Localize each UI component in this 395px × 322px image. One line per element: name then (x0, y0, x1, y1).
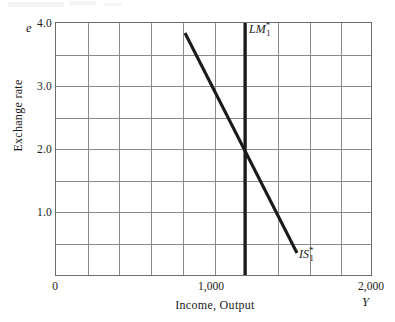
scan-artifact (104, 3, 122, 6)
gridline-horizontal (56, 244, 371, 245)
gridline-horizontal (56, 212, 371, 213)
gridline-horizontal (56, 55, 371, 56)
gridline-horizontal (56, 86, 371, 87)
x-tick-2000: 2,000 (348, 281, 394, 293)
lm-curve-label: LM*1 (249, 23, 270, 35)
lm-curve-label-main: LM (249, 22, 266, 36)
x-tick-0: 0 (40, 281, 70, 293)
chart-figure: e 4.0 3.0 2.0 1.0 Exchange rate LM*1 IS*… (0, 0, 395, 322)
is-curve-label: IS*1 (299, 248, 314, 260)
plot-area (55, 22, 372, 276)
y-tick-4: 4.0 (18, 18, 52, 30)
is-curve-label-main: IS (299, 247, 309, 261)
gridline-horizontal (56, 149, 371, 150)
x-axis-variable-label: Y (362, 296, 369, 309)
is-curve-label-index: 1 (310, 253, 314, 263)
gridline-horizontal (56, 181, 371, 182)
y-axis-title: Exchange rate (11, 56, 26, 176)
lm-curve-label-index: 1 (266, 28, 270, 38)
gridline-horizontal (56, 118, 371, 119)
y-axis-tick-labels: 4.0 3.0 2.0 1.0 (0, 0, 52, 322)
x-axis-title: Income, Output (140, 298, 290, 313)
x-tick-1000: 1,000 (188, 281, 234, 293)
scan-artifact (70, 1, 96, 5)
y-tick-1: 1.0 (18, 207, 52, 219)
